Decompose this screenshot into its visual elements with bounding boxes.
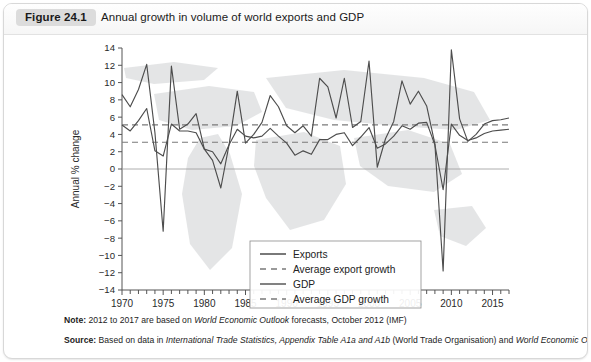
- y-axis-ticks: 14121086420−2−4−6−8−10−12−14: [99, 42, 122, 295]
- x-tick-label: 1970: [111, 298, 134, 309]
- figure-source: Source: Based on data in International T…: [64, 335, 588, 345]
- y-axis-title: Annual % change: [70, 129, 81, 208]
- x-tick-label: 2015: [481, 298, 504, 309]
- figure-note: Note: 2012 to 2017 are based on World Ec…: [64, 315, 407, 325]
- y-tick-label: 8: [110, 94, 115, 105]
- y-tick-label: 12: [104, 60, 115, 71]
- source-text-2: (World Trade Organisation) and: [390, 335, 516, 345]
- figure-title: Annual growth in volume of world exports…: [101, 11, 364, 23]
- legend-label-4: Average GDP growth: [293, 294, 389, 305]
- source-text-1: Based on data in: [96, 335, 166, 345]
- x-tick-label: 2010: [440, 298, 463, 309]
- chart-plot-area: 14121086420−2−4−6−8−10−12−14 19701975198…: [4, 34, 588, 319]
- world-map-backdrop: [124, 62, 490, 270]
- y-tick-label: 4: [110, 129, 116, 140]
- legend-label-1: Exports: [293, 249, 328, 260]
- y-tick-label: −4: [104, 198, 116, 209]
- x-tick-label: 1975: [152, 298, 175, 309]
- y-tick-label: 0: [110, 163, 115, 174]
- legend-label-3: GDP: [293, 279, 315, 290]
- y-tick-label: 2: [110, 146, 115, 157]
- source-italic-2: World Economic Outlook: [516, 335, 588, 345]
- y-tick-label: 14: [104, 42, 115, 53]
- y-tick-label: −2: [104, 181, 115, 192]
- y-tick-label: 6: [110, 112, 115, 123]
- y-tick-label: 10: [104, 77, 115, 88]
- source-label: Source:: [64, 335, 96, 345]
- legend-label-2: Average export growth: [293, 264, 395, 275]
- figure-header: Figure 24.1 Annual growth in volume of w…: [4, 4, 587, 35]
- figure-card: Figure 24.1 Annual growth in volume of w…: [3, 3, 588, 359]
- note-text-2: forecasts, October 2012 (IMF): [289, 315, 407, 325]
- y-tick-label: −14: [99, 284, 116, 295]
- y-tick-label: −6: [104, 215, 115, 226]
- note-label: Note:: [64, 315, 86, 325]
- chart-legend: ExportsAverage export growthGDPAverage G…: [250, 241, 421, 308]
- note-text-1: 2012 to 2017 are based on: [86, 315, 194, 325]
- line-chart: 14121086420−2−4−6−8−10−12−14 19701975198…: [4, 34, 588, 319]
- y-tick-label: −12: [99, 267, 115, 278]
- y-tick-label: −8: [104, 233, 115, 244]
- figure-number-badge: Figure 24.1: [16, 9, 96, 26]
- note-italic-1: World Economic Outlook: [194, 315, 289, 325]
- x-tick-label: 1980: [193, 298, 216, 309]
- y-tick-label: −10: [99, 250, 115, 261]
- source-italic-1: International Trade Statistics, Appendix…: [166, 335, 390, 345]
